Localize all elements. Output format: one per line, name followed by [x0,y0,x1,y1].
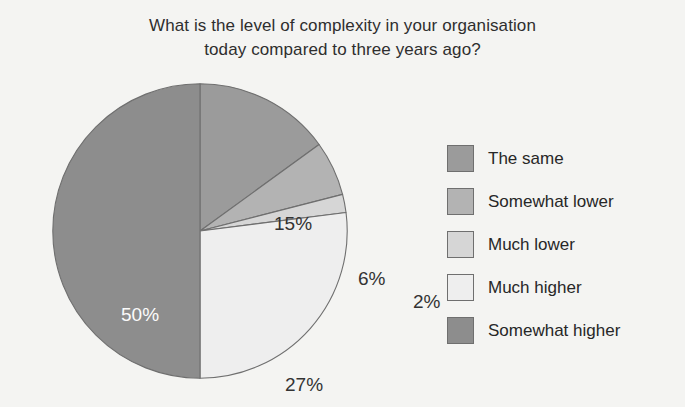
legend-item-label: Much higher [488,278,582,298]
legend-swatch-icon [447,231,474,258]
slice-label-somewhat-lower: 6% [358,269,385,288]
slice-label-much-lower: 2% [413,292,440,311]
chart-title: What is the level of complexity in your … [0,14,685,62]
chart-title-line-1: What is the level of complexity in your … [0,14,685,38]
chart-legend: The sameSomewhat lowerMuch lowerMuch hig… [447,137,679,352]
legend-item: Somewhat higher [447,309,679,352]
legend-item: Much higher [447,266,679,309]
legend-item-label: Much lower [488,235,575,255]
chart-title-line-2: today compared to three years ago? [0,38,685,62]
pie-slice [53,84,200,378]
legend-item: The same [447,137,679,180]
legend-item-label: Somewhat lower [488,192,614,212]
legend-item-label: Somewhat higher [488,321,620,341]
legend-item-label: The same [488,149,564,169]
slice-label-much-higher: 27% [285,375,323,394]
legend-swatch-icon [447,188,474,215]
legend-item: Somewhat lower [447,180,679,223]
pie-chart: 15% 6% 2% 27% 50% [52,83,348,379]
chart-page: What is the level of complexity in your … [0,0,685,407]
legend-swatch-icon [447,274,474,301]
legend-swatch-icon [447,145,474,172]
slice-label-somewhat-higher: 50% [121,305,159,324]
legend-swatch-icon [447,317,474,344]
slice-label-the-same: 15% [274,214,312,233]
legend-item: Much lower [447,223,679,266]
pie-slice [200,213,347,379]
